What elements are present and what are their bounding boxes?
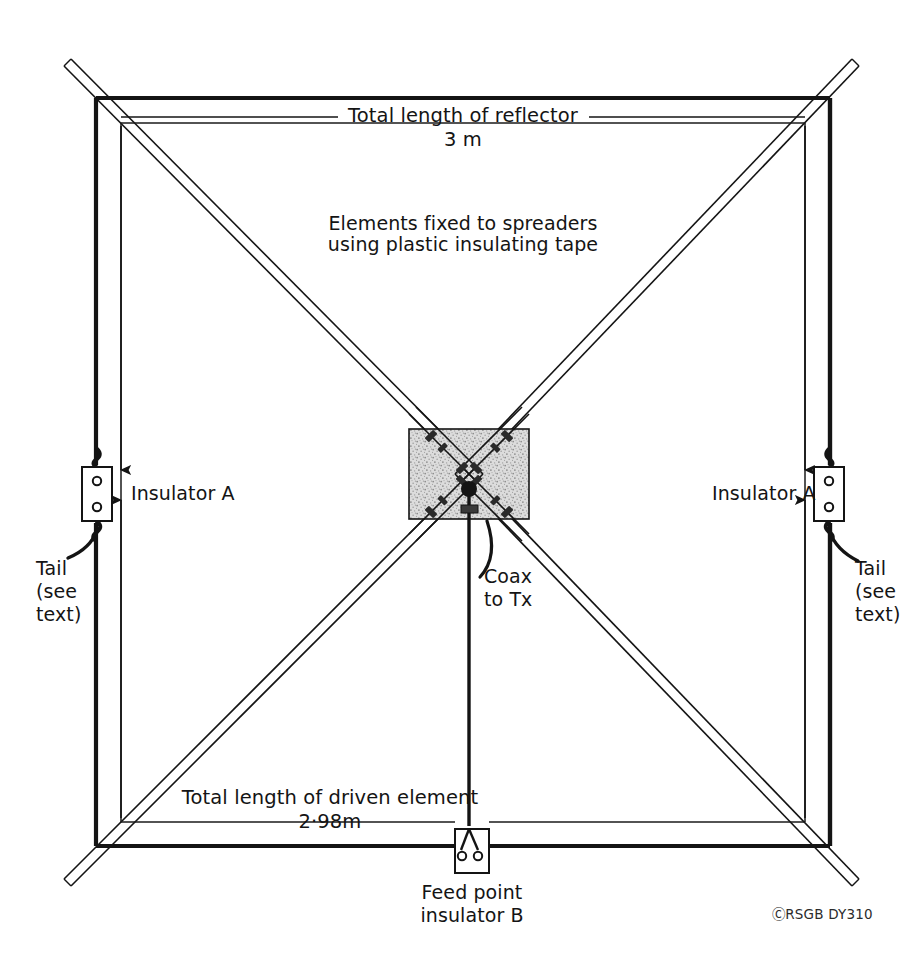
insulator-a-right-label: Insulator A (712, 482, 816, 505)
feed-point-label-line-1: Feed point (422, 881, 523, 904)
tail-right-label-line-3: text) (855, 603, 900, 626)
feed-point-label-line-2: insulator B (420, 904, 523, 927)
tail-left-label-line-1: Tail (36, 557, 67, 580)
insulator-a-left-label: Insulator A (131, 482, 235, 505)
feed-point-insulator-b (455, 829, 489, 873)
spreader-se (462, 474, 859, 886)
tail-right-label-line-2: (see (855, 580, 896, 603)
balun-connector (461, 481, 477, 497)
insulator-a-left (68, 448, 112, 558)
feeder-clamp (461, 505, 478, 513)
spreader-note-line-1: Elements fixed to spreaders (329, 212, 598, 235)
driven-element-length-value: 2·98m (299, 810, 362, 834)
spreader-note-line-2: using plastic insulating tape (328, 233, 598, 256)
driven-element-length-title: Total length of driven element (182, 786, 478, 810)
tail-left-label-line-3: text) (36, 603, 81, 626)
spreader-sw (64, 474, 476, 886)
insulator-a-right (814, 448, 858, 561)
diagram-canvas: Total length of reflector 3 m Elements f… (0, 0, 923, 969)
reflector-length-title: Total length of reflector (348, 104, 578, 128)
tail-left-label-line-2: (see (36, 580, 77, 603)
copyright-notice: ⒸRSGB DY310 (772, 903, 873, 923)
tail-right-label-line-1: Tail (855, 557, 886, 580)
coax-label-line-2: to Tx (484, 588, 532, 611)
coax-label-line-1: Coax (484, 565, 532, 588)
reflector-length-value: 3 m (444, 128, 482, 152)
coax-feeder (461, 481, 492, 826)
